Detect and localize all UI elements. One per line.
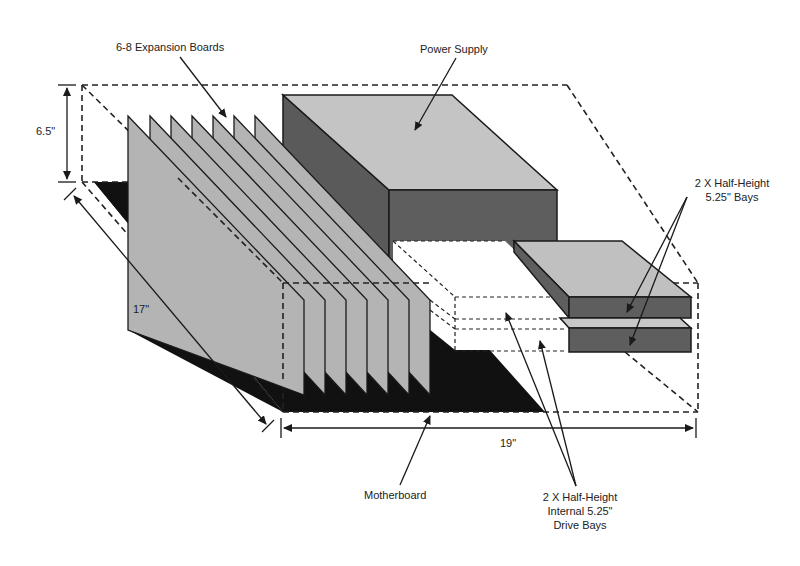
internal-bays-line1: 2 X Half-Height [525, 490, 635, 504]
label-power-supply: Power Supply [420, 42, 488, 56]
label-expansion-boards: 6-8 Expansion Boards [116, 40, 224, 54]
chassis-diagram: 6-8 Expansion Boards Power Supply 2 X Ha… [0, 0, 800, 566]
internal-bays-line3: Drive Bays [525, 518, 635, 532]
label-external-bays: 2 X Half-Height 5.25" Bays [682, 176, 782, 204]
label-height-dim: 6.5" [36, 124, 55, 138]
label-width-dim: 19" [500, 436, 516, 450]
external-bays-line2: 5.25" Bays [682, 190, 782, 204]
label-motherboard: Motherboard [364, 488, 426, 502]
internal-bays-line2: Internal 5.25" [525, 504, 635, 518]
external-bays-line1: 2 X Half-Height [682, 176, 782, 190]
label-internal-bays: 2 X Half-Height Internal 5.25" Drive Bay… [525, 490, 635, 532]
label-depth-dim: 17" [133, 302, 149, 316]
diagram-graphic [0, 0, 800, 566]
